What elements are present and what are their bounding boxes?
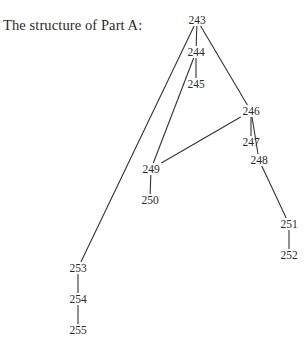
edge-246-249 [161, 117, 240, 163]
edge-248-251 [262, 166, 286, 218]
node-247: 247 [242, 136, 260, 148]
edges-group [78, 26, 289, 324]
node-248: 248 [250, 154, 268, 166]
node-246: 246 [242, 105, 260, 117]
node-251: 251 [280, 218, 298, 230]
node-254: 254 [69, 293, 87, 305]
node-245: 245 [187, 78, 205, 90]
node-243: 243 [188, 14, 206, 26]
node-255: 255 [69, 324, 87, 336]
nodes-group: 243244245246247248249250251252253254255 [69, 14, 298, 336]
node-253: 253 [69, 262, 87, 274]
node-244: 244 [187, 46, 205, 58]
edge-243-253 [81, 26, 194, 262]
node-250: 250 [141, 194, 159, 206]
edge-243-246 [201, 26, 248, 105]
edge-243-244 [196, 26, 197, 46]
tree-diagram: 243244245246247248249250251252253254255 [0, 0, 308, 347]
node-249: 249 [142, 163, 160, 175]
edge-249-250 [150, 175, 151, 194]
node-252: 252 [280, 249, 298, 261]
